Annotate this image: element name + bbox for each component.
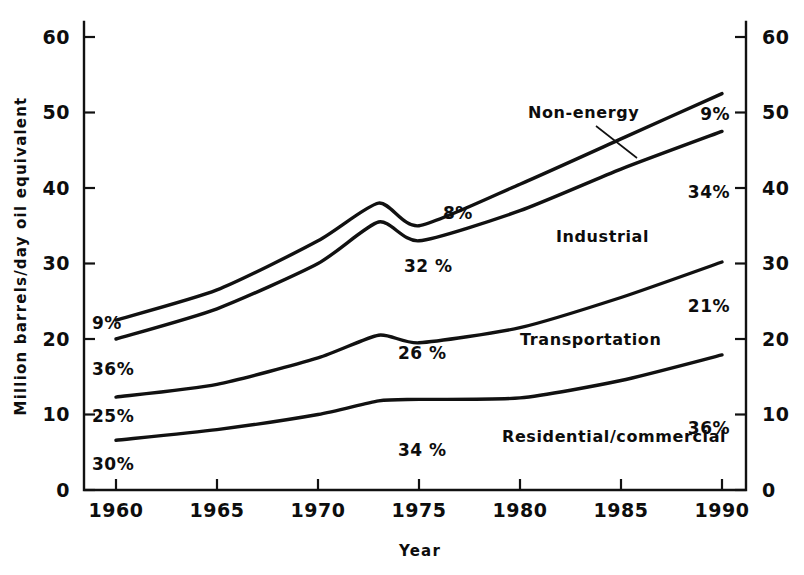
inline-pct-non-energy: 8% [443, 203, 473, 223]
right-pct-non-energy: 9% [700, 104, 730, 124]
curve-non-energy [116, 94, 722, 321]
chart-figure: 0 10 20 30 40 50 60 0 10 20 30 40 50 60 … [0, 0, 804, 575]
tick-label-right-40: 40 [762, 177, 789, 199]
series-label-non-energy: Non-energy [528, 103, 639, 122]
tick-label-right-60: 60 [762, 26, 789, 48]
series-label-transportation: Transportation [520, 330, 661, 349]
tick-label-x-1985: 1985 [594, 499, 649, 521]
x-axis-title: Year [398, 542, 441, 560]
tick-label-right-0: 0 [762, 479, 776, 501]
left-pct-residential: 30% [92, 454, 134, 474]
x-tick-labels: 1960 1965 1970 1975 1980 1985 1990 [89, 499, 750, 521]
inline-pct-transportation: 26 % [398, 343, 447, 363]
tick-label-left-40: 40 [43, 177, 70, 199]
inline-share-labels: 8% 32 % 26 % 34 % [398, 203, 473, 460]
left-tick-labels: 0 10 20 30 40 50 60 [43, 26, 70, 501]
inline-pct-residential: 34 % [398, 440, 447, 460]
series-label-residential: Residential/commercial [502, 427, 726, 446]
tick-label-x-1975: 1975 [392, 499, 447, 521]
right-pct-industrial: 34% [688, 182, 730, 202]
left-pct-non-energy: 9% [92, 313, 122, 333]
tick-label-left-60: 60 [43, 26, 70, 48]
right-pct-transportation: 21% [688, 296, 730, 316]
tick-label-right-50: 50 [762, 101, 789, 123]
inline-pct-industrial: 32 % [404, 256, 453, 276]
tick-label-x-1965: 1965 [190, 499, 245, 521]
series-label-industrial: Industrial [556, 227, 649, 246]
tick-label-left-30: 30 [43, 252, 70, 274]
tick-label-x-1980: 1980 [493, 499, 548, 521]
tick-label-x-1970: 1970 [291, 499, 346, 521]
non-energy-leader-line [596, 126, 637, 158]
left-pct-transportation: 25% [92, 406, 134, 426]
right-axis-ticks [735, 37, 746, 490]
line-chart: 0 10 20 30 40 50 60 0 10 20 30 40 50 60 … [0, 0, 804, 575]
tick-label-x-1990: 1990 [695, 499, 750, 521]
right-tick-labels: 0 10 20 30 40 50 60 [762, 26, 789, 501]
tick-label-left-20: 20 [43, 328, 70, 350]
y-axis-title: Million barrels/day oil equivalent [12, 97, 30, 416]
x-axis-ticks [116, 479, 722, 490]
tick-label-x-1960: 1960 [89, 499, 144, 521]
tick-label-left-10: 10 [43, 403, 70, 425]
left-pct-industrial: 36% [92, 359, 134, 379]
tick-label-left-0: 0 [56, 479, 70, 501]
tick-label-right-10: 10 [762, 403, 789, 425]
tick-label-right-30: 30 [762, 252, 789, 274]
tick-label-right-20: 20 [762, 328, 789, 350]
tick-label-left-50: 50 [43, 101, 70, 123]
